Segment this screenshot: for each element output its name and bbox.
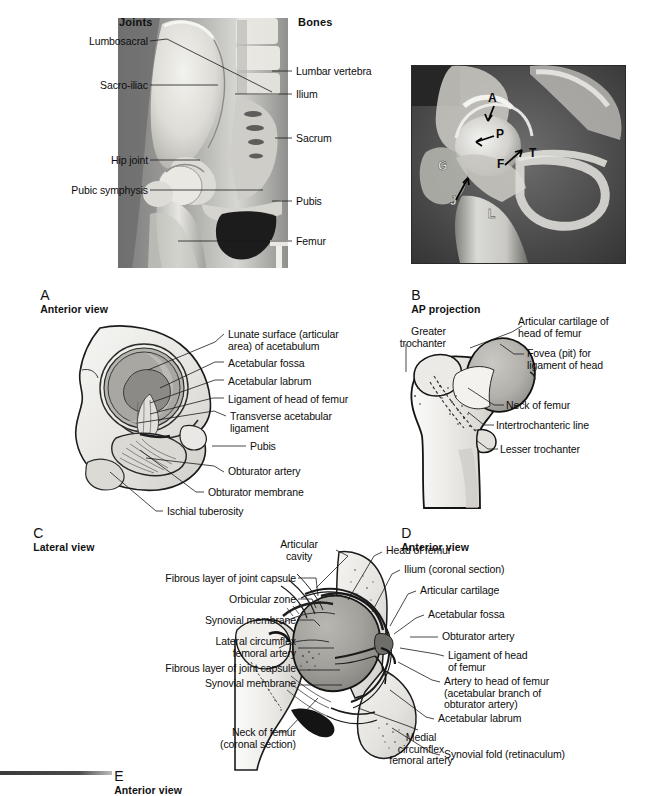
xray-marker-F: F (497, 157, 504, 171)
panel-a-leader-lines (0, 0, 340, 280)
xray-marker-A: A (488, 91, 497, 105)
panel-e-caption-text: Anterior view (114, 784, 182, 796)
xray-marker-L: L (488, 207, 495, 221)
panel-d-leader-lines (360, 300, 652, 530)
panel-e-leader-lines (0, 530, 652, 782)
xray-marker-T: T (529, 146, 537, 160)
xray-marker-J: J (450, 194, 457, 208)
panel-b-radiograph: A P F T G J L (411, 65, 626, 264)
page-edge-bar (0, 771, 112, 775)
panel-e-letter: E (114, 768, 123, 784)
panel-e-caption: E Anterior view (108, 756, 182, 796)
xray-marker-G: G (438, 159, 447, 173)
panel-c-leader-lines (0, 300, 360, 530)
xray-marker-P: P (496, 127, 504, 141)
